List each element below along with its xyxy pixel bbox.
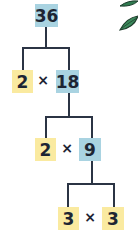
factor-node-2: 2 bbox=[12, 70, 33, 93]
factor-node-18: 18 bbox=[56, 70, 79, 93]
factor-node-2: 2 bbox=[35, 138, 56, 161]
connector-line bbox=[91, 161, 93, 183]
connector-line bbox=[22, 47, 69, 49]
times-operator: × bbox=[36, 72, 50, 88]
connector-line bbox=[113, 183, 115, 207]
factor-node-3: 3 bbox=[58, 207, 79, 230]
connector-line bbox=[67, 183, 69, 207]
connector-line bbox=[45, 27, 47, 47]
connector-line bbox=[45, 116, 47, 138]
root-node-36: 36 bbox=[35, 4, 58, 27]
connector-line bbox=[68, 93, 70, 116]
times-operator: × bbox=[83, 209, 97, 225]
connector-line bbox=[67, 183, 114, 185]
connector-line bbox=[91, 116, 93, 138]
factor-tree-diagram: 36 2 × 18 2 × 9 3 × 3 bbox=[0, 0, 138, 239]
factor-node-9: 9 bbox=[79, 138, 101, 161]
connector-line bbox=[22, 47, 24, 70]
factor-node-3: 3 bbox=[102, 207, 124, 230]
connector-line bbox=[68, 47, 70, 70]
times-operator: × bbox=[60, 140, 74, 156]
leaf-icon bbox=[118, 0, 138, 36]
connector-line bbox=[45, 116, 92, 118]
